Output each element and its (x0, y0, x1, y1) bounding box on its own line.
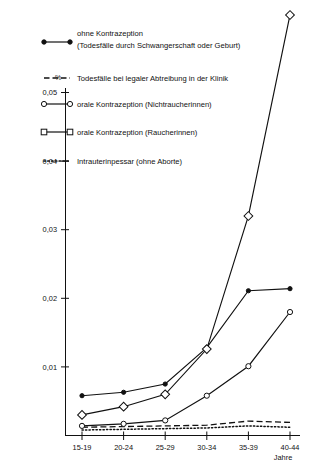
data-point-0-4 (246, 289, 250, 293)
data-point-0-2 (163, 382, 167, 386)
legend-marker-end (67, 101, 72, 106)
y-tick-label-1: 0,02 (43, 294, 57, 303)
legend-marker-start (41, 101, 46, 106)
legend-marker-end (68, 40, 72, 44)
x-tick-label-5: 40-44 (281, 443, 300, 452)
legend-label-orale-raucherinnen: orale Kontrazeption (Raucherinnen) (77, 128, 198, 137)
legend-item-orale-nichtraucherinnen: orale Kontrazeption (Nichtraucherinnen) (41, 100, 212, 109)
series-3 (78, 11, 295, 420)
x-axis-tick-labels: 15-1920-2425-2930-3435-3940-44 (73, 443, 300, 452)
y-tick-label-4: 0,05 (43, 88, 57, 97)
legend-item-orale-raucherinnen: orale Kontrazeption (Raucherinnen) (41, 128, 198, 137)
data-point-0-5 (288, 287, 292, 291)
series-0 (80, 287, 292, 398)
axes (66, 88, 301, 436)
legend-swatch-ohne-kontrazeption (42, 40, 72, 44)
legend-item-legale-abtreibung: Todesfälle bei legaler Abtreibung in der… (44, 74, 228, 83)
data-point-0-0 (80, 394, 84, 398)
x-tick-label-0: 15-19 (73, 443, 92, 452)
x-tick-label-3: 30-34 (197, 443, 216, 452)
legend-label-legale-abtreibung: Todesfälle bei legaler Abtreibung in der… (77, 74, 228, 83)
data-point-2-4 (246, 364, 251, 369)
data-point-0-1 (122, 390, 126, 394)
data-point-3-4 (244, 212, 253, 221)
x-tick-label-1: 20-24 (114, 443, 133, 452)
y-tick-label-2: 0,03 (43, 225, 57, 234)
data-point-3-1 (119, 402, 128, 411)
legend-item-ohne-kontrazeption: ohne Kontrazeption(Todesfälle durch Schw… (42, 29, 241, 50)
series-2 (79, 309, 292, 428)
data-point-2-2 (163, 418, 168, 423)
x-tick-label-4: 35-39 (239, 443, 258, 452)
data-point-2-0 (79, 423, 84, 428)
legend-item-intrauterinpessar: Intrauterinpessar (ohne Aborte) (44, 157, 183, 166)
data-point-2-1 (121, 421, 126, 426)
data-point-3-0 (78, 411, 87, 420)
x-axis-name-label: Jahre (274, 453, 293, 462)
data-point-2-5 (287, 309, 292, 314)
data-point-3-5 (286, 11, 295, 20)
legend-label-ohne-kontrazeption-line1: ohne Kontrazeption (77, 29, 143, 38)
legend-marker-start (42, 40, 46, 44)
x-tick-label-2: 25-29 (156, 443, 175, 452)
data-point-2-3 (204, 393, 209, 398)
legend-label-ohne-kontrazeption-line2: (Todesfälle durch Schwangerschaft oder G… (77, 41, 241, 50)
y-tick-label-0: 0,01 (43, 363, 57, 372)
mortality-line-chart: 0,010,020,030,040,05 % 15-1920-2425-2930… (0, 0, 316, 475)
legend-swatch-orale-nichtraucherinnen (41, 101, 72, 106)
legend-marker-start (41, 129, 47, 135)
chart-legend: ohne Kontrazeption(Todesfälle durch Schw… (41, 29, 241, 166)
legend-label-orale-nichtraucherinnen: orale Kontrazeption (Nichtraucherinnen) (77, 100, 212, 109)
series-line-0 (82, 289, 290, 396)
legend-swatch-orale-raucherinnen (41, 129, 73, 135)
chart-figure: 0,010,020,030,040,05 % 15-1920-2425-2930… (0, 0, 316, 475)
legend-label-intrauterinpessar: Intrauterinpessar (ohne Aborte) (77, 157, 183, 166)
legend-marker-end (67, 129, 73, 135)
